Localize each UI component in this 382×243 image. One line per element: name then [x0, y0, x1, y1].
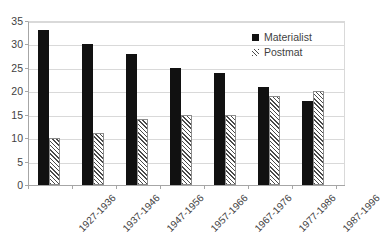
y-tick-label: 25: [11, 63, 23, 74]
bar-postmat[interactable]: [269, 96, 280, 185]
bar-postmat[interactable]: [137, 119, 148, 185]
bar-postmat[interactable]: [181, 115, 192, 185]
y-tick-label: 20: [11, 86, 23, 97]
y-tick-label: 5: [17, 156, 23, 167]
y-tick-label: 30: [11, 39, 23, 50]
bar-materialist[interactable]: [258, 87, 269, 185]
solid-square-icon: [252, 34, 259, 41]
bar-materialist[interactable]: [126, 54, 137, 185]
bar-postmat[interactable]: [313, 91, 324, 185]
y-tick-label: 10: [11, 133, 23, 144]
legend-item-materialist[interactable]: Materialist: [252, 30, 338, 45]
bar-materialist[interactable]: [38, 30, 49, 185]
x-tick-label: 1947-1956: [165, 193, 206, 234]
x-axis: 1927-1936 1937-1946 1947-1956 1957-1966 …: [0, 185, 352, 243]
x-tick-label: 1967-1976: [253, 193, 294, 234]
legend-item-postmat[interactable]: Postmat: [252, 45, 338, 60]
y-tick-label: 35: [11, 16, 23, 27]
bar-postmat[interactable]: [49, 138, 60, 185]
legend: Materialist Postmat: [252, 30, 338, 60]
hatched-square-icon: [252, 49, 259, 56]
x-tick-label: 1927-1936: [77, 193, 118, 234]
legend-label: Postmat: [264, 47, 303, 58]
bar-materialist[interactable]: [214, 73, 225, 185]
y-tick-label: 15: [11, 109, 23, 120]
bar-postmat[interactable]: [93, 133, 104, 185]
bar-materialist[interactable]: [82, 44, 93, 185]
bar-materialist[interactable]: [170, 68, 181, 185]
legend-label: Materialist: [264, 32, 312, 43]
x-tick-label: 1957-1966: [209, 193, 250, 234]
x-tick-label: 1977-1986: [297, 193, 338, 234]
x-tick-label: 1937-1946: [121, 193, 162, 234]
x-tick-label: 1987-1996: [341, 193, 382, 234]
bar-materialist[interactable]: [302, 101, 313, 185]
bar-postmat[interactable]: [225, 115, 236, 185]
